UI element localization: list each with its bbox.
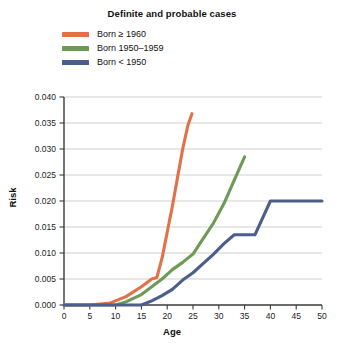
chart-figure: Definite and probable cases Born ≥ 1960 … xyxy=(0,0,344,345)
y-tick-label: 0.030 xyxy=(16,144,56,154)
x-tick-label: 45 xyxy=(284,311,308,321)
y-tick-label: 0.015 xyxy=(16,222,56,232)
y-tick-label: 0.000 xyxy=(16,300,56,310)
y-tick-label: 0.010 xyxy=(16,248,56,258)
data-series-group xyxy=(64,114,322,305)
y-tick-label: 0.040 xyxy=(16,92,56,102)
y-tick-label: 0.005 xyxy=(16,274,56,284)
axis-ticks xyxy=(60,97,323,310)
x-tick-label: 15 xyxy=(129,311,153,321)
x-tick-label: 10 xyxy=(104,311,128,321)
x-tick-label: 35 xyxy=(233,311,257,321)
y-tick-label: 0.025 xyxy=(16,170,56,180)
x-tick-label: 5 xyxy=(78,311,102,321)
x-tick-label: 0 xyxy=(52,311,76,321)
x-axis-title: Age xyxy=(0,326,344,337)
x-tick-label: 40 xyxy=(258,311,282,321)
y-tick-label: 0.020 xyxy=(16,196,56,206)
x-tick-label: 50 xyxy=(310,311,334,321)
y-axis-title: Risk xyxy=(7,168,18,228)
y-tick-label: 0.035 xyxy=(16,118,56,128)
x-tick-label: 25 xyxy=(181,311,205,321)
x-tick-label: 20 xyxy=(155,311,179,321)
x-tick-label: 30 xyxy=(207,311,231,321)
